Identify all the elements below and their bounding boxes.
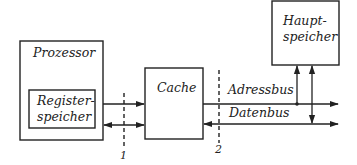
- processor-label: Prozessor: [32, 45, 96, 60]
- boundary-1-label: 1: [120, 149, 127, 162]
- cache-label: Cache: [157, 80, 196, 95]
- register-box: Register- speicher: [29, 90, 95, 128]
- boundary-2-label: 2: [214, 143, 222, 156]
- main-memory-label-line2: speicher: [283, 29, 338, 44]
- main-memory-box: Haupt- speicher: [272, 1, 339, 65]
- cache-box: Cache: [145, 68, 203, 139]
- address-bus-label: Adressbus: [227, 82, 294, 97]
- data-bus-label: Datenbus: [228, 105, 289, 120]
- register-label-line2: speicher: [37, 109, 92, 124]
- address-bus-junction-dot: [295, 102, 299, 106]
- main-memory-label-line1: Haupt-: [282, 13, 327, 28]
- register-label-line1: Register-: [36, 93, 95, 108]
- memory-hierarchy-diagram: Prozessor Register- speicher Cache Haupt…: [0, 0, 357, 165]
